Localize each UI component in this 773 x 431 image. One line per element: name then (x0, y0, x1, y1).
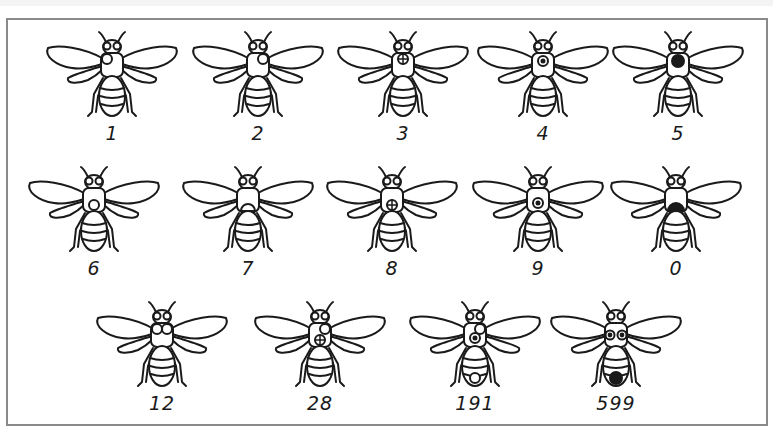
bee-marking-icon (398, 54, 408, 64)
bee-figure-191: 191 (405, 298, 545, 418)
bee-icon (178, 163, 318, 259)
scan-edge (0, 0, 773, 6)
bee-icon (92, 298, 232, 394)
bee-number-label: 5 (608, 122, 748, 144)
bee-icon (188, 28, 328, 124)
bee-icon (333, 28, 473, 124)
bee-number-label: 3 (333, 122, 473, 144)
bee-marking-icon (538, 56, 548, 66)
bee-icon (546, 298, 686, 394)
bee-icon (250, 298, 390, 394)
bee-figure-0: 0 (606, 163, 746, 283)
bee-marking-icon (668, 203, 684, 211)
bee-figure-5: 5 (608, 28, 748, 148)
bee-number-label: 9 (468, 257, 608, 279)
bee-figure-7: 7 (178, 163, 318, 283)
bee-number-label: 8 (322, 257, 462, 279)
bee-marking-icon (387, 200, 397, 210)
bee-icon (42, 28, 182, 124)
bee-marking-icon (258, 54, 268, 64)
bee-icon (608, 28, 748, 124)
bee-icon (473, 28, 613, 124)
bee-number-label: 12 (92, 392, 232, 414)
bee-number-label: 0 (606, 257, 746, 279)
bee-figure-9: 9 (468, 163, 608, 283)
bee-marking-icon (89, 200, 99, 210)
bee-number-label: 6 (24, 257, 164, 279)
bee-number-label: 2 (188, 122, 328, 144)
bee-marking-icon (533, 198, 543, 208)
bee-icon (468, 163, 608, 259)
bee-figure-6: 6 (24, 163, 164, 283)
bee-icon (24, 163, 164, 259)
bee-number-label: 7 (178, 257, 318, 279)
bee-number-label: 191 (405, 392, 545, 414)
bee-icon (405, 298, 545, 394)
bee-marking-icon (672, 55, 684, 67)
bee-number-label: 599 (546, 392, 686, 414)
bee-figure-28: 28 (250, 298, 390, 418)
bee-number-label: 28 (250, 392, 390, 414)
bee-icon (322, 163, 462, 259)
bee-figure-599: 599 (546, 298, 686, 418)
bee-marking-icon (241, 204, 255, 211)
bee-number-label: 4 (473, 122, 613, 144)
bee-icon (606, 163, 746, 259)
bee-figure-3: 3 (333, 28, 473, 148)
bee-marking-icon (102, 54, 112, 64)
bee-figure-1: 1 (42, 28, 182, 148)
bee-number-label: 1 (42, 122, 182, 144)
bee-figure-12: 12 (92, 298, 232, 418)
bee-figure-4: 4 (473, 28, 613, 148)
bee-figure-8: 8 (322, 163, 462, 283)
bee-figure-2: 2 (188, 28, 328, 148)
